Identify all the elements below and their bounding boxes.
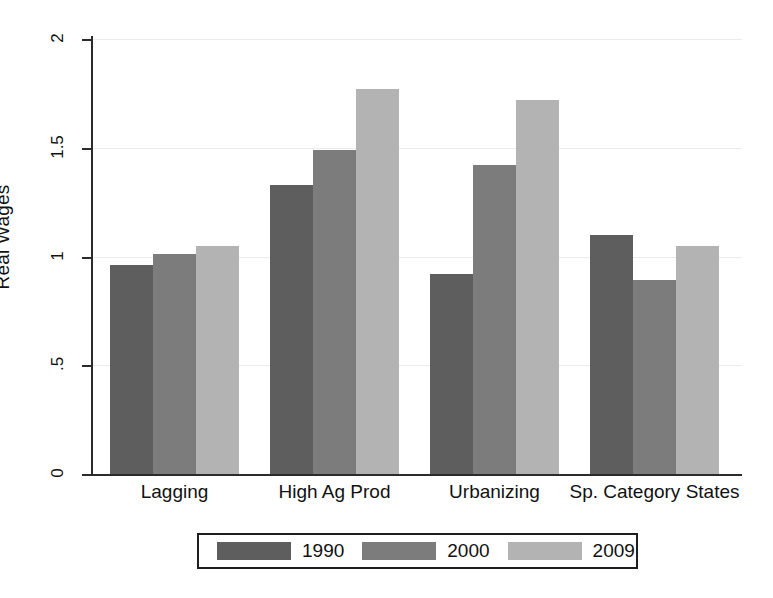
legend-label-2009: 2009 xyxy=(593,540,635,562)
legend-label-1990: 1990 xyxy=(302,540,344,562)
legend-item-2000[interactable]: 2000 xyxy=(344,535,489,567)
legend-label-2000: 2000 xyxy=(447,540,489,562)
x-axis-label-2: Urbanizing xyxy=(449,481,540,503)
chart-legend: 199020002009 xyxy=(197,533,638,569)
bar-1990-3 xyxy=(590,235,633,474)
y-axis-tick-label-text: 0 xyxy=(48,468,68,477)
y-axis-tick xyxy=(82,257,91,259)
bar-2000-2 xyxy=(473,165,516,474)
y-axis-tick-label: 1.5 xyxy=(38,137,78,157)
y-axis-tick-label: 0 xyxy=(38,463,78,483)
y-axis-tick-label-text: .5 xyxy=(48,357,68,371)
bar-2009-1 xyxy=(356,89,399,474)
y-axis-tick-label-text: 1 xyxy=(48,251,68,260)
y-axis-tick-label: 1 xyxy=(38,246,78,266)
bar-1990-0 xyxy=(110,265,153,474)
bar-1990-1 xyxy=(270,185,313,474)
legend-item-2009[interactable]: 2009 xyxy=(490,535,635,567)
x-axis-line xyxy=(91,474,742,476)
y-axis-tick-label: .5 xyxy=(38,354,78,374)
bar-chart-figure: Real Wages 0.511.52 LaggingHigh Ag ProdU… xyxy=(0,0,773,598)
plot-area xyxy=(92,30,742,474)
x-axis-label-3: Sp. Category States xyxy=(569,481,739,503)
bar-2000-1 xyxy=(313,150,356,474)
y-axis-title: Real Wages xyxy=(0,0,56,474)
y-axis-tick xyxy=(82,365,91,367)
bar-2009-0 xyxy=(196,246,239,474)
bar-2000-3 xyxy=(633,280,676,474)
bar-2009-2 xyxy=(516,100,559,474)
x-axis-label-0: Lagging xyxy=(141,481,209,503)
legend-swatch-1990 xyxy=(217,542,291,560)
x-axis-label-1: High Ag Prod xyxy=(279,481,391,503)
y-axis-tick xyxy=(82,474,91,476)
legend-swatch-2000 xyxy=(362,542,436,560)
y-axis-title-text: Real Wages xyxy=(0,185,15,290)
y-axis-tick xyxy=(82,39,91,41)
y-axis-tick-label: 2 xyxy=(38,28,78,48)
legend-swatch-2009 xyxy=(508,542,582,560)
y-axis-tick xyxy=(82,148,91,150)
legend-item-1990[interactable]: 1990 xyxy=(199,535,344,567)
bar-2000-0 xyxy=(153,254,196,474)
y-axis-tick-label-text: 2 xyxy=(48,33,68,42)
bar-2009-3 xyxy=(676,246,719,474)
bar-1990-2 xyxy=(430,274,473,474)
y-axis-tick-label-text: 1.5 xyxy=(48,135,68,159)
